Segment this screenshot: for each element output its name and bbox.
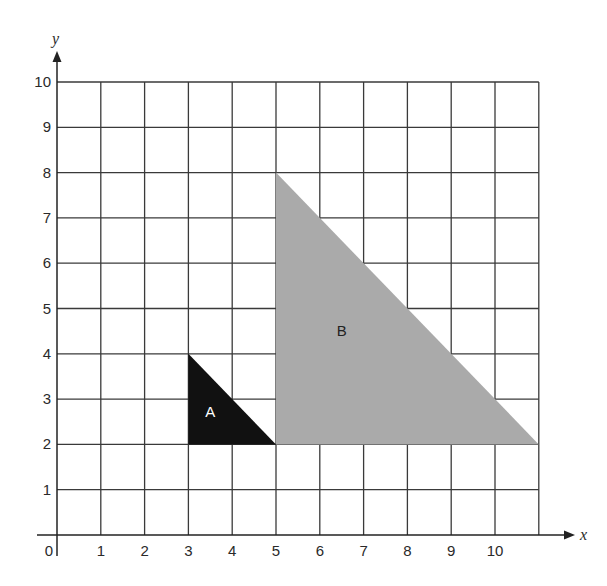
- x-tick-label: 2: [140, 542, 148, 559]
- x-tick-label: 4: [228, 542, 236, 559]
- y-tick-label: 1: [43, 481, 51, 498]
- y-tick-label: 4: [43, 345, 51, 362]
- y-tick-label: 9: [43, 118, 51, 135]
- x-tick-label: 6: [316, 542, 324, 559]
- x-axis-arrow-icon: [564, 531, 575, 540]
- y-tick-label: 5: [43, 300, 51, 317]
- coordinate-grid: ABxy01234567891012345678910: [0, 0, 607, 586]
- y-tick-label: 3: [43, 390, 51, 407]
- y-tick-label: 8: [43, 164, 51, 181]
- x-tick-label: 8: [403, 542, 411, 559]
- x-tick-label: 10: [487, 542, 504, 559]
- shape-label-b: B: [337, 322, 347, 339]
- y-tick-label: 10: [34, 73, 51, 90]
- y-tick-label: 2: [43, 435, 51, 452]
- shape-label-a: A: [205, 403, 215, 420]
- x-tick-label: 5: [272, 542, 280, 559]
- x-tick-label: 1: [97, 542, 105, 559]
- x-tick-label: 9: [447, 542, 455, 559]
- x-tick-label: 0: [45, 542, 53, 559]
- y-tick-label: 7: [43, 209, 51, 226]
- x-tick-label: 3: [184, 542, 192, 559]
- x-tick-label: 7: [359, 542, 367, 559]
- x-axis-label: x: [579, 526, 587, 543]
- y-tick-label: 6: [43, 254, 51, 271]
- y-axis-arrow-icon: [53, 51, 62, 62]
- y-axis-label: y: [50, 30, 60, 48]
